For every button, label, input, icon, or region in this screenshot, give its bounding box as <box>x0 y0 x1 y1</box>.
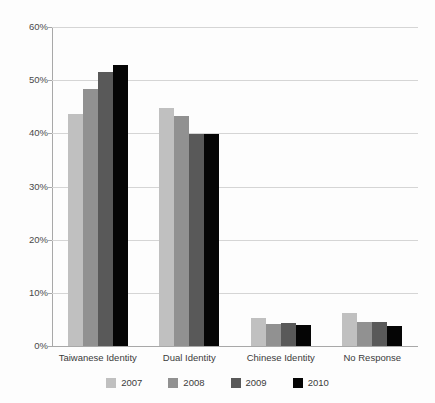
bar <box>387 326 402 346</box>
legend-swatch-icon <box>168 378 178 388</box>
bar <box>83 89 98 346</box>
bar <box>372 322 387 346</box>
axis-baseline <box>52 346 418 347</box>
bar-group <box>235 27 327 346</box>
x-axis-category-label: No Response <box>327 351 419 365</box>
bar-group <box>144 27 236 346</box>
y-axis-tick-labels: 60%50%40%30%20%10%0% <box>0 0 48 403</box>
legend-label: 2008 <box>183 378 204 388</box>
bar <box>357 322 372 346</box>
bar <box>189 134 204 346</box>
legend-swatch-icon <box>106 378 116 388</box>
bar <box>281 323 296 346</box>
bar <box>174 116 189 346</box>
bar-chart: 60%50%40%30%20%10%0% Taiwanese IdentityD… <box>0 0 435 403</box>
legend-label: 2007 <box>121 378 142 388</box>
bar-group <box>327 27 419 346</box>
y-axis-tick-label: 0% <box>4 341 48 351</box>
bar <box>68 114 83 346</box>
bar <box>159 108 174 346</box>
bar <box>251 318 266 346</box>
y-axis-tick-label: 40% <box>4 129 48 139</box>
bar-group <box>52 27 144 346</box>
x-axis-category-labels: Taiwanese IdentityDual IdentityChinese I… <box>52 351 418 367</box>
bar <box>296 325 311 346</box>
bar <box>266 324 281 346</box>
legend-item: 2008 <box>168 378 204 388</box>
bar <box>98 72 113 346</box>
legend-swatch-icon <box>231 378 241 388</box>
bar <box>342 313 357 346</box>
legend-item: 2010 <box>293 378 329 388</box>
y-axis-tick-label: 30% <box>4 182 48 192</box>
x-axis-category-label: Dual Identity <box>144 351 236 365</box>
legend-item: 2007 <box>106 378 142 388</box>
bar <box>204 134 219 346</box>
legend-label: 2010 <box>308 378 329 388</box>
y-axis-tick-label: 50% <box>4 75 48 85</box>
y-axis-tick-label: 10% <box>4 288 48 298</box>
legend-label: 2009 <box>246 378 267 388</box>
legend-item: 2009 <box>231 378 267 388</box>
chart-legend: 2007200820092010 <box>0 375 435 391</box>
y-axis-tick-label: 20% <box>4 235 48 245</box>
y-axis-tick-label: 60% <box>4 22 48 32</box>
x-axis-category-label: Chinese Identity <box>235 351 327 365</box>
legend-swatch-icon <box>293 378 303 388</box>
bar <box>113 65 128 346</box>
x-axis-category-label: Taiwanese Identity <box>52 351 144 365</box>
plot-area <box>52 27 418 346</box>
